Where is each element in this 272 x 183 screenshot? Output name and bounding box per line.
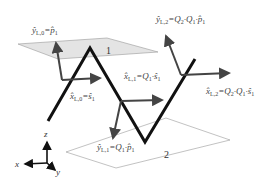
- label-y-l2: ŷL,2=Q2·Q1·p̂1: [156, 15, 205, 25]
- plane-2-label: 2: [164, 150, 169, 160]
- label-x-l0: x̂L,0=ŝ1: [70, 92, 95, 102]
- label-y-l0: ŷL,0=p̂1: [32, 26, 58, 36]
- axis-x-label: x: [15, 160, 19, 169]
- axis-x: [25, 163, 47, 164]
- label-x-l2: x̂L,2=Q2·Q1·ŝ1: [206, 87, 254, 97]
- label-x-l1: x̂L,1=Q1·ŝ1: [124, 72, 161, 82]
- arrow-x-l1: [121, 100, 162, 101]
- axis-y: [47, 163, 55, 170]
- plane-2: [66, 118, 230, 168]
- label-y-l1: ŷL,1=Q1·p̂1: [97, 143, 135, 153]
- axis-y-label: y: [56, 168, 60, 177]
- plane-1-label: 1: [106, 46, 111, 56]
- arrow-y-l1: [113, 101, 121, 138]
- arrow-x-l0: [62, 78, 100, 80]
- arrow-y-l2: [166, 36, 181, 75]
- axis-z-label: z: [44, 130, 48, 139]
- arrow-x-l2: [181, 73, 229, 75]
